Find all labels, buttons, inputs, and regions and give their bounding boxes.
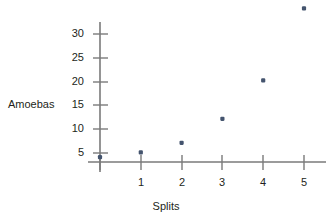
x-tick-label-5: 5 [296,176,312,188]
y-tick-label-30: 30 [62,27,84,39]
y-tick-label-15: 15 [62,98,84,110]
x-axis [88,155,326,170]
x-axis-title: Splits [0,200,332,212]
data-point [261,78,265,82]
scatter-chart: Amoebas Splits 30 25 20 15 10 5 1 2 3 4 … [0,0,332,221]
y-tick-label-20: 20 [62,75,84,87]
y-tick-label-10: 10 [62,122,84,134]
x-tick-label-4: 4 [255,176,271,188]
data-point-series [98,6,306,159]
data-point [180,141,184,145]
x-tick-label-3: 3 [214,176,230,188]
data-point [139,150,143,154]
plot-area [0,0,332,221]
y-axis [93,22,108,172]
x-tick-label-1: 1 [133,176,149,188]
y-axis-title: Amoebas [8,98,54,110]
data-point [302,6,306,10]
data-point [98,155,102,159]
x-tick-label-2: 2 [174,176,190,188]
y-tick-label-5: 5 [62,146,84,158]
y-tick-label-25: 25 [62,51,84,63]
data-point [220,117,224,121]
